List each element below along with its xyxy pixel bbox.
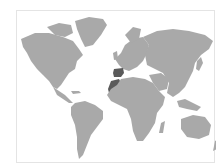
- region-north-america[interactable]: [21, 33, 83, 89]
- world-map: [17, 11, 216, 164]
- region-new-zealand[interactable]: [213, 139, 216, 151]
- region-uk[interactable]: [113, 51, 118, 60]
- region-south-america[interactable]: [71, 101, 103, 159]
- region-spain[interactable]: [113, 68, 124, 77]
- region-madagascar[interactable]: [159, 121, 165, 133]
- map-frame: [16, 10, 215, 163]
- region-central-america[interactable]: [53, 87, 73, 103]
- region-australia[interactable]: [181, 115, 211, 139]
- region-greenland[interactable]: [75, 17, 107, 47]
- region-southeast-asia[interactable]: [177, 99, 201, 111]
- region-caribbean[interactable]: [71, 91, 81, 94]
